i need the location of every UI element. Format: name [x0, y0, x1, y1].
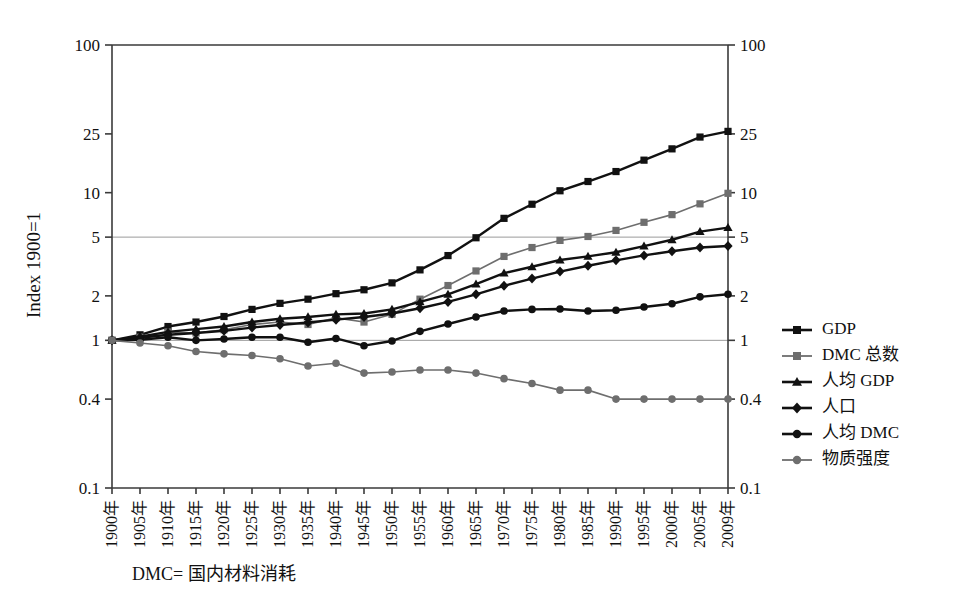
x-tick-label: 1940年 [327, 500, 344, 548]
data-point [584, 307, 592, 315]
data-point [220, 313, 227, 320]
data-point [388, 368, 396, 376]
data-point [304, 362, 312, 370]
data-point [696, 293, 704, 301]
data-point [444, 366, 452, 374]
data-point [220, 335, 228, 343]
data-point [444, 252, 451, 259]
data-point [472, 369, 480, 377]
data-point [555, 267, 564, 277]
data-point [724, 128, 731, 135]
data-point [192, 337, 200, 345]
data-point [668, 300, 676, 308]
x-tick-label: 1905年 [131, 500, 148, 548]
data-point [444, 320, 452, 328]
data-point [360, 342, 368, 350]
data-point [723, 241, 732, 251]
data-point [472, 313, 480, 321]
data-point [612, 395, 620, 403]
data-point [793, 430, 801, 438]
x-tick-label: 2005年 [691, 500, 708, 548]
x-tick-label: 1975年 [523, 500, 540, 548]
footnote: DMC= 国内材料消耗 [132, 564, 296, 584]
y-tick-label-left: 10 [83, 184, 100, 203]
data-point [472, 267, 479, 274]
x-tick-label: 1995年 [635, 500, 652, 548]
x-tick-label: 1930年 [271, 500, 288, 548]
legend-label: GDP [822, 319, 856, 338]
x-tick-label: 1965年 [467, 500, 484, 548]
data-point [556, 305, 564, 313]
x-tick-label: 1900年 [103, 500, 120, 548]
data-point [528, 380, 536, 388]
data-point [248, 333, 256, 341]
x-tick-label: 1990年 [607, 500, 624, 548]
data-point [248, 306, 255, 313]
y-tick-label-left: 100 [75, 36, 101, 55]
data-point [696, 200, 703, 207]
y-tick-label-right: 0.1 [740, 479, 761, 498]
data-point [192, 318, 199, 325]
data-point [416, 266, 423, 273]
gridlines-group [112, 237, 728, 340]
data-point [388, 279, 395, 286]
data-point [500, 307, 508, 315]
data-point [528, 306, 536, 314]
y-tick-label-right: 2 [740, 287, 749, 306]
data-point [304, 338, 312, 346]
series-人均 GDP [107, 223, 732, 344]
data-point [724, 395, 732, 403]
data-point [276, 355, 284, 363]
x-tick-label: 1945年 [355, 500, 372, 548]
chart-container: 10025105210.40.1 10025105210.40.1 1900年1… [0, 0, 953, 605]
legend-item-人均 DMC[interactable]: 人均 DMC [782, 423, 899, 442]
series-line [112, 246, 728, 340]
data-point [276, 300, 283, 307]
data-point [220, 350, 228, 358]
y-tick-label-right: 1 [740, 331, 749, 350]
x-axis-ticks: 1900年1905年1910年1915年1920年1925年1930年1935年… [103, 488, 736, 548]
data-point [667, 246, 676, 256]
y-tick-label-right: 10 [740, 184, 757, 203]
y-tick-label-left: 5 [92, 228, 101, 247]
data-point [696, 395, 704, 403]
data-point [792, 403, 802, 414]
y-axis-left-ticks: 10025105210.40.1 [75, 36, 113, 498]
data-point [668, 145, 675, 152]
legend-item-物质强度[interactable]: 物质强度 [782, 449, 890, 468]
data-point [668, 395, 676, 403]
data-point [612, 227, 619, 234]
data-point [527, 274, 536, 284]
legend-label: DMC 总数 [822, 345, 899, 364]
x-tick-label: 1960年 [439, 500, 456, 548]
legend-label: 人均 DMC [822, 423, 899, 442]
data-point [640, 395, 648, 403]
legend-item-GDP[interactable]: GDP [782, 319, 856, 338]
data-point [640, 157, 647, 164]
x-tick-label: 2000年 [663, 500, 680, 548]
data-point [584, 386, 592, 394]
y-axis-title: Index 1900=1 [23, 212, 44, 318]
data-point [360, 286, 367, 293]
x-tick-label: 1925年 [243, 500, 260, 548]
data-point [583, 261, 592, 271]
x-tick-label: 1910年 [159, 500, 176, 548]
data-point [640, 303, 648, 311]
y-tick-label-right: 100 [740, 36, 766, 55]
y-tick-label-left: 2 [92, 287, 101, 306]
data-point [639, 250, 648, 260]
data-point [556, 386, 564, 394]
legend-item-人均 GDP[interactable]: 人均 GDP [782, 371, 894, 390]
y-tick-label-right: 5 [740, 228, 749, 247]
x-tick-label: 1950年 [383, 500, 400, 548]
data-point [164, 333, 172, 341]
legend-item-DMC 总数[interactable]: DMC 总数 [782, 345, 899, 364]
legend-item-人口[interactable]: 人口 [782, 397, 856, 416]
data-point [584, 178, 591, 185]
y-tick-label-right: 0.4 [740, 390, 762, 409]
y-tick-label-left: 1 [92, 331, 101, 350]
data-point [528, 201, 535, 208]
series-line [112, 228, 728, 341]
data-point [668, 211, 675, 218]
data-point [416, 366, 424, 374]
